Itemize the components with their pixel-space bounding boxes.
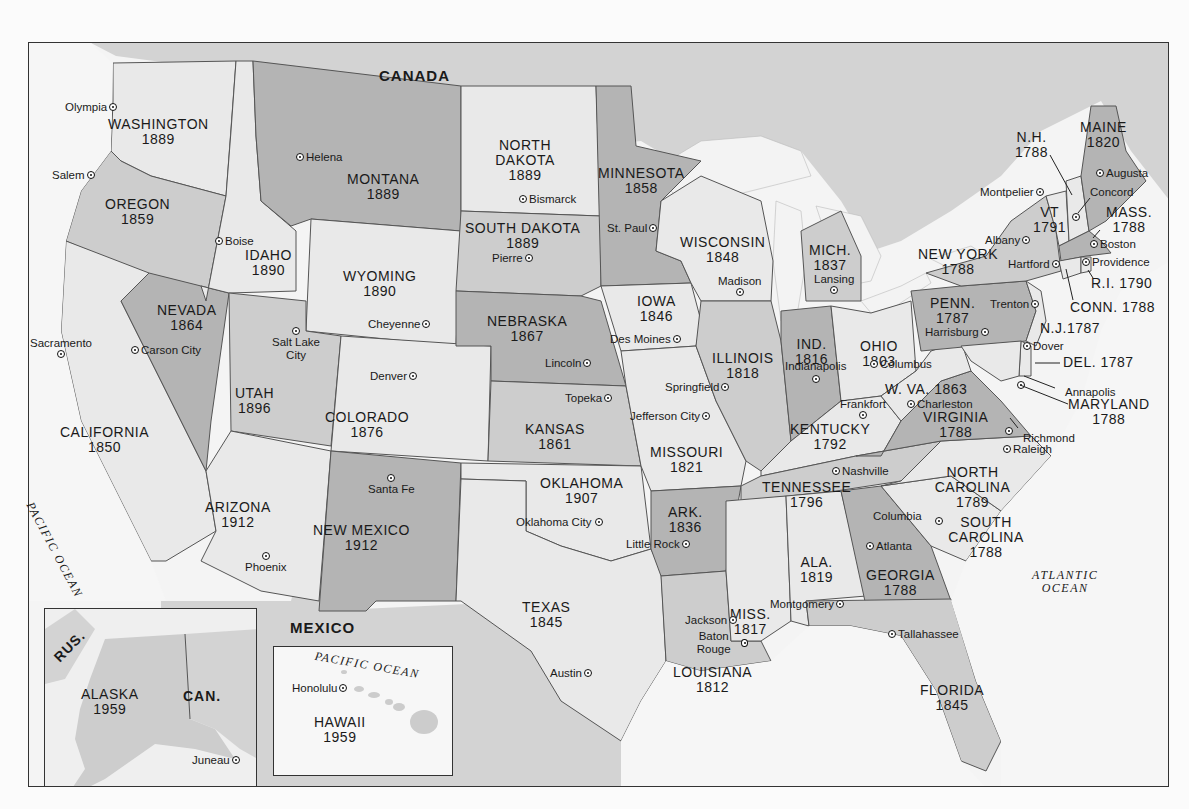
capital-icon	[604, 394, 612, 402]
capital-icon	[292, 327, 300, 335]
capital-sacramento: Sacramento	[30, 337, 92, 358]
label-delaware: DEL. 1787	[1063, 355, 1134, 370]
capital-icon	[866, 542, 874, 550]
capital-indianapolis: Indianapolis	[785, 360, 846, 383]
capital-icon	[525, 254, 533, 262]
capital-icon	[673, 335, 681, 343]
capital-icon	[729, 616, 737, 624]
capital-icon	[830, 286, 838, 294]
label-south-carolina: SOUTH CAROLINA1788	[946, 515, 1026, 560]
label-iowa: IOWA1846	[637, 294, 676, 324]
label-canada-inset: CAN.	[183, 689, 221, 704]
label-mexico: MEXICO	[290, 620, 355, 636]
capital-springfield: Springfield	[665, 381, 729, 393]
capital-icon	[57, 350, 65, 358]
label-massachusetts: MASS.1788	[1106, 205, 1152, 235]
label-vermont: VT1791	[1033, 205, 1066, 235]
capital-icon	[649, 224, 657, 232]
capital-denver: Denver	[370, 370, 417, 382]
capital-icon	[832, 467, 840, 475]
capital-icon	[519, 195, 527, 203]
label-oregon: OREGON1859	[105, 197, 170, 227]
capital-columbus: Columbus	[870, 358, 932, 370]
capital-icon	[422, 320, 430, 328]
capital-icon	[131, 346, 139, 354]
lake-michigan	[773, 201, 806, 321]
label-south-dakota: SOUTH DAKOTA1889	[465, 221, 580, 251]
label-michigan: MICH.1837	[809, 243, 851, 273]
capital-icon	[1082, 258, 1090, 266]
label-maryland: MARYLAND1788	[1068, 397, 1150, 427]
label-rhode-island: R.I. 1790	[1091, 276, 1152, 291]
montana-shape	[253, 61, 461, 231]
label-nebraska: NEBRASKA1867	[487, 314, 567, 344]
us-statehood-map: RUS. CAN. ALASKA1959 Juneau PACIFIC OCEA…	[28, 42, 1169, 787]
capital-icon	[595, 518, 603, 526]
capital-charleston: Charleston	[907, 398, 973, 410]
capital-icon	[296, 153, 304, 161]
capital-topeka: Topeka	[565, 392, 612, 404]
capital-olympia: Olympia	[65, 101, 117, 113]
label-connecticut: CONN. 1788	[1070, 300, 1155, 315]
capital-st-paul: St. Paul	[607, 222, 657, 234]
label-utah: UTAH1896	[235, 386, 274, 416]
capital-icon	[736, 288, 744, 296]
capital-atlanta: Atlanta	[866, 540, 912, 552]
capital-columbia-icon	[935, 517, 943, 525]
capital-icon	[812, 375, 820, 383]
label-nevada: NEVADA1864	[157, 303, 217, 333]
capital-baton-rouge: Baton Rouge	[688, 630, 748, 655]
capital-icon	[1031, 300, 1039, 308]
capital-salt-lake-city: Salt Lake City	[266, 327, 326, 361]
capital-cheyenne: Cheyenne	[368, 318, 430, 330]
label-washington: WASHINGTON1889	[108, 117, 209, 147]
capital-icon	[1096, 169, 1104, 177]
label-west-virginia: W. VA. 1863	[885, 382, 967, 397]
hawaii-inset: PACIFIC OCEAN Honolulu HAWAII1959	[273, 646, 453, 776]
label-wyoming: WYOMING1890	[343, 269, 417, 299]
capital-icon	[741, 639, 748, 647]
capital-lansing: Lansing	[814, 273, 854, 294]
label-alabama: ALA.1819	[800, 555, 833, 585]
label-wisconsin: WISCONSIN1848	[680, 235, 765, 265]
capital-icon	[870, 360, 878, 368]
label-hawaii: HAWAII1959	[314, 715, 366, 745]
label-new-hampshire: N.H.1788	[1015, 130, 1048, 160]
capital-nashville: Nashville	[832, 465, 889, 477]
capital-honolulu: Honolulu	[292, 682, 347, 694]
capital-icon	[109, 103, 117, 111]
capital-oklahoma-city: Oklahoma City	[516, 516, 603, 529]
label-new-mexico: NEW MEXICO1912	[313, 523, 410, 553]
capital-providence: Providence	[1082, 256, 1150, 268]
capital-albany: Albany	[985, 234, 1030, 246]
capital-icon	[907, 400, 915, 408]
capital-salem: Salem	[52, 169, 95, 181]
label-tennessee: TENNESSEE1796	[762, 480, 851, 510]
capital-hartford: Hartford	[1008, 258, 1060, 270]
capital-austin: Austin	[550, 667, 592, 679]
label-arizona: ARIZONA1912	[205, 500, 271, 530]
label-kentucky: KENTUCKY1792	[790, 422, 870, 452]
label-oklahoma: OKLAHOMA1907	[540, 476, 623, 506]
label-arkansas: ARK.1836	[668, 505, 703, 535]
capital-icon	[836, 600, 844, 608]
capital-annapolis: Annapolis	[1017, 372, 1116, 398]
label-montana: MONTANA1889	[347, 172, 419, 202]
capital-little-rock: Little Rock	[626, 538, 690, 550]
capital-icon	[409, 372, 417, 380]
capital-icon	[584, 669, 592, 677]
capital-trenton: Trenton	[990, 298, 1039, 310]
capital-icon	[1003, 445, 1011, 453]
capital-icon	[1022, 236, 1030, 244]
capital-montpelier: Montpelier	[980, 186, 1044, 198]
capital-juneau: Juneau	[192, 754, 240, 766]
label-new-jersey: N.J.1787	[1040, 321, 1100, 336]
label-florida: FLORIDA1845	[920, 683, 984, 713]
capital-des-moines: Des Moines	[610, 333, 681, 345]
capital-icon	[387, 474, 395, 482]
capital-raleigh: Raleigh	[1003, 443, 1052, 455]
capital-icon	[87, 171, 95, 179]
colorado-shape	[331, 336, 491, 461]
label-maine: MAINE1820	[1080, 120, 1127, 150]
capital-icon	[232, 756, 240, 764]
